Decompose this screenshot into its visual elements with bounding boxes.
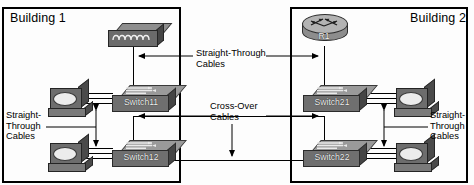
device-workstation-b2-lower[interactable]: [394, 141, 438, 175]
device-workstation-b1-upper[interactable]: [48, 86, 92, 120]
network-diagram-canvas: Building 1 Building 2: [0, 0, 474, 185]
device-switch22[interactable]: Switch22: [303, 140, 365, 166]
pc-base: [48, 108, 86, 117]
router-arrows-icon: [307, 16, 341, 30]
hub-wave-icon: [111, 32, 153, 43]
callout-center-cross-over: Cross-Over Cables: [210, 101, 258, 122]
link-switch21-pc21-b: [367, 98, 396, 99]
switch11-arrows-icon: [122, 86, 166, 95]
link-switch22-pc22-b: [367, 153, 396, 154]
router-r1-label: R1: [302, 31, 346, 41]
link-switch22-pc22-c: [367, 158, 396, 159]
pc-screen: [399, 92, 423, 106]
pc-base: [394, 108, 432, 117]
switch12-label: Switch12: [114, 151, 168, 164]
device-router-r1[interactable]: R1: [302, 14, 348, 48]
device-switch21[interactable]: Switch21: [303, 85, 365, 111]
pc-screen: [399, 147, 423, 161]
switch12-arrows-icon: [122, 141, 166, 150]
device-switch11[interactable]: Switch11: [112, 85, 174, 111]
link-switch21-pc21-c: [367, 103, 396, 104]
building-2-label: Building 2: [410, 11, 466, 25]
switch21-arrows-icon: [313, 86, 357, 95]
switch22-label: Switch22: [305, 151, 359, 164]
callout-left-straight-through: Straight- Through Cables: [6, 110, 41, 142]
link-switch21-pc21-a: [367, 93, 396, 94]
device-switch12[interactable]: Switch12: [112, 140, 174, 166]
switch21-label: Switch21: [305, 96, 359, 109]
link-switch22-pc22-a: [367, 148, 396, 149]
device-hub[interactable]: [108, 23, 166, 47]
callout-right-straight-through: Straight- Through Cables: [430, 110, 465, 142]
pc-screen: [53, 92, 77, 106]
switch11-label: Switch11: [114, 96, 168, 109]
pc-screen: [53, 147, 77, 161]
pc-base: [48, 163, 86, 172]
switch22-arrows-icon: [313, 141, 357, 150]
device-workstation-b1-lower[interactable]: [48, 141, 92, 175]
building-1-label: Building 1: [10, 11, 66, 25]
callout-center-straight-through: Straight-Through Cables: [196, 48, 266, 69]
pc-base: [394, 163, 432, 172]
